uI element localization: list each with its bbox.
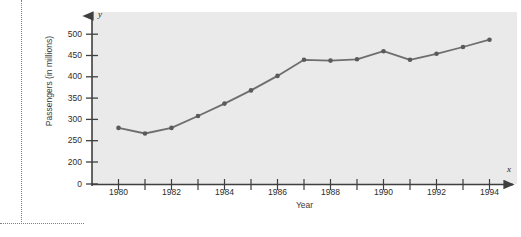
data-point-1991 — [408, 58, 413, 63]
x-tick-label-1994: 1994 — [473, 187, 507, 197]
y-axis-variable-label: y — [98, 9, 102, 19]
data-point-1984 — [222, 101, 227, 106]
page-frame-vertical-rule — [21, 0, 22, 224]
data-point-1985 — [249, 88, 254, 93]
data-series-line — [119, 40, 490, 134]
y-tick-label-300: 300 — [52, 114, 82, 124]
x-axis-title: Year — [92, 200, 517, 210]
x-tick-label-1988: 1988 — [314, 187, 348, 197]
data-point-1990 — [381, 49, 386, 54]
data-point-1989 — [355, 57, 360, 62]
y-tick-label-250: 250 — [52, 135, 82, 145]
data-point-1988 — [328, 58, 333, 63]
page-frame-horizontal-rule — [0, 223, 84, 224]
x-axis-variable-label: x — [507, 164, 511, 174]
data-point-1994 — [487, 37, 492, 42]
y-tick-label-400: 400 — [52, 71, 82, 81]
data-point-1993 — [461, 45, 466, 50]
data-point-1983 — [196, 114, 201, 119]
data-point-1986 — [275, 74, 280, 79]
data-point-markers — [116, 37, 492, 135]
data-point-1982 — [169, 126, 174, 131]
data-point-1992 — [434, 52, 439, 57]
y-axis-group — [86, 16, 98, 186]
y-tick-label-200: 200 — [52, 157, 82, 167]
y-tick-label-0: 0 — [52, 179, 82, 189]
y-tick-label-500: 500 — [52, 29, 82, 39]
x-tick-label-1992: 1992 — [420, 187, 454, 197]
data-point-1987 — [302, 58, 307, 63]
x-tick-label-1986: 1986 — [261, 187, 295, 197]
y-tick-label-350: 350 — [52, 93, 82, 103]
x-tick-label-1980: 1980 — [102, 187, 136, 197]
y-tick-label-450: 450 — [52, 50, 82, 60]
data-point-1981 — [143, 131, 148, 136]
x-tick-label-1984: 1984 — [208, 187, 242, 197]
x-tick-label-1982: 1982 — [155, 187, 189, 197]
data-point-1980 — [116, 126, 121, 131]
line-chart-figure: Passengers (in millions) Year y x 200250… — [30, 4, 521, 216]
chart-canvas — [30, 4, 521, 216]
x-tick-label-1990: 1990 — [367, 187, 401, 197]
